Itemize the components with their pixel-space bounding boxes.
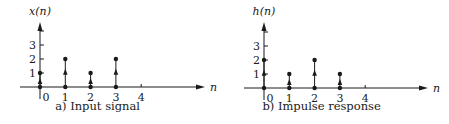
x-axis-label: n	[433, 82, 440, 95]
stem-tip-dot	[114, 57, 118, 61]
stem-base-dot	[338, 86, 342, 90]
y-axis-label: x(n)	[29, 5, 51, 18]
stem-tip-dot	[287, 72, 291, 76]
x-axis-arrow-icon	[196, 85, 205, 90]
stem-arrow-icon	[38, 78, 43, 84]
chart-caption: b) Impulse response	[262, 99, 381, 113]
x-axis-label: n	[210, 81, 217, 94]
stem-arrow-icon	[63, 69, 68, 75]
stem-plots: nx(n)12301234a) Input signalnh(n)1230123…	[0, 0, 449, 124]
stem	[287, 72, 292, 90]
stem-tip-dot	[88, 71, 92, 75]
chart-caption: a) Input signal	[55, 99, 140, 113]
panel-a: nx(n)12301234a) Input signal	[20, 5, 217, 113]
y-axis-arrow-icon	[262, 22, 267, 31]
stem-arrow-icon	[88, 78, 93, 84]
stem-tip-dot	[38, 71, 42, 75]
stem-base-dot	[88, 85, 92, 89]
y-tick-label: 1	[29, 67, 36, 80]
stem	[114, 57, 119, 89]
stem	[262, 58, 267, 90]
stem-tip-dot	[63, 57, 67, 61]
stem-tip-dot	[312, 58, 316, 62]
x-axis-arrow-icon	[419, 86, 428, 91]
stem-tip-dot	[338, 72, 342, 76]
stem-base-dot	[287, 86, 291, 90]
y-tick-label: 3	[29, 39, 36, 52]
y-tick-label: 1	[253, 68, 260, 81]
stem-base-dot	[312, 86, 316, 90]
stem-base-dot	[114, 85, 118, 89]
y-axis-label: h(n)	[253, 5, 276, 18]
x-tick-label: 0	[43, 91, 50, 104]
stem-arrow-icon	[287, 79, 292, 85]
stem	[63, 57, 68, 89]
stem-tip-dot	[262, 58, 266, 62]
stem-base-dot	[63, 85, 67, 89]
stem	[338, 72, 343, 90]
stem-arrow-icon	[312, 70, 317, 76]
stem-base-dot	[38, 85, 42, 89]
y-axis-arrow-icon	[38, 22, 43, 31]
stem	[38, 71, 43, 89]
y-tick-label: 3	[253, 40, 260, 53]
stem	[88, 71, 93, 89]
panel-b: nh(n)12301234b) Impulse response	[244, 5, 440, 113]
y-tick-label: 2	[253, 54, 260, 67]
stem	[312, 58, 317, 90]
stem-arrow-icon	[262, 70, 267, 76]
stem-base-dot	[262, 86, 266, 90]
stem-arrow-icon	[114, 69, 119, 75]
stem-arrow-icon	[338, 79, 343, 85]
y-tick-label: 2	[29, 53, 36, 66]
